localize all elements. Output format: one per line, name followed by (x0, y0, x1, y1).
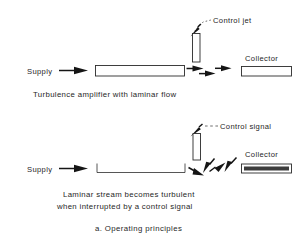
collector-laminar (242, 67, 292, 77)
supply-arrow-turbulent (59, 165, 88, 172)
control-signal-label: Control signal (220, 122, 271, 131)
jet-stream-arrows-laminar (187, 65, 232, 76)
control-jet-nozzle (193, 34, 201, 63)
panel-caption-turbulent-line1: Laminar stream becomes turbulent (63, 190, 195, 199)
panel-turbulent: Control signal Supply Collector Laminar … (27, 122, 292, 212)
panel-caption-turbulent-line2: when interrupted by a control signal (56, 202, 193, 211)
laminar-channel (96, 66, 185, 77)
control-jet-label: Control jet (213, 16, 252, 25)
collector-label-turbulent: Collector (245, 150, 278, 159)
turbulent-channel-bracket (97, 164, 185, 173)
collector-turbulent (242, 164, 292, 173)
panel-caption-laminar: Turbulence amplifier with laminar flow (33, 90, 176, 99)
control-signal-nozzle (193, 134, 201, 161)
figure-canvas: Control jet Supply Collector Turbulence … (0, 0, 300, 249)
panel-laminar: Control jet Supply Collector Turbulence … (27, 16, 292, 100)
collector-label-laminar: Collector (245, 54, 278, 63)
fluidics-operating-principles-figure: Control jet Supply Collector Turbulence … (0, 0, 300, 249)
supply-arrow-laminar (59, 67, 88, 74)
supply-label-laminar: Supply (27, 67, 52, 76)
supply-label-turbulent: Supply (27, 165, 52, 174)
figure-caption: a. Operating principles (95, 224, 182, 233)
